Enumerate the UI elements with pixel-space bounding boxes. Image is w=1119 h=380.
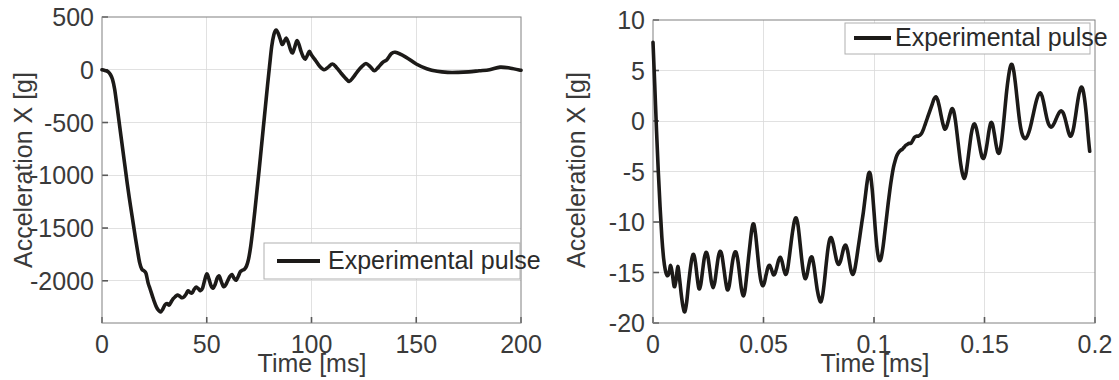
data-series-experimental-pulse-right bbox=[653, 42, 1090, 312]
y-axis-label-right: Acceleration X [g] bbox=[562, 72, 590, 268]
x-axis-label-left: Time [ms] bbox=[258, 349, 367, 377]
y-tick-label: -20 bbox=[609, 309, 645, 337]
y-axis-label-left: Acceleration X [g] bbox=[9, 72, 37, 268]
y-tick-label: 10 bbox=[617, 6, 645, 34]
y-tick-label: -1000 bbox=[30, 161, 94, 189]
y-tick-label: 5 bbox=[631, 57, 645, 85]
x-tick-label: 0 bbox=[646, 330, 660, 358]
chart-panel-right: 00.050.10.150.21050-5-10-15-20 Time [ms]… bbox=[559, 0, 1119, 380]
legend-label-left: Experimental pulse bbox=[328, 246, 541, 274]
chart-svg-right: 00.050.10.150.21050-5-10-15-20 Time [ms]… bbox=[559, 0, 1119, 380]
y-tick-label: 500 bbox=[52, 3, 94, 31]
chart-svg-left: 0501001502005000-500-1000-1500-2000 Time… bbox=[0, 0, 560, 380]
y-tick-label: 0 bbox=[631, 107, 645, 135]
chart-panel-left: 0501001502005000-500-1000-1500-2000 Time… bbox=[0, 0, 560, 380]
legend-right[interactable]: Experimental pulse bbox=[845, 23, 1108, 54]
y-tick-label: -5 bbox=[623, 158, 645, 186]
x-tick-label: 50 bbox=[193, 330, 221, 358]
y-tick-label: -1500 bbox=[30, 214, 94, 242]
y-tick-label: -10 bbox=[609, 208, 645, 236]
x-tick-label: 0 bbox=[95, 330, 109, 358]
legend-left[interactable]: Experimental pulse bbox=[264, 243, 541, 279]
y-tick-label: -2000 bbox=[30, 267, 94, 295]
y-tick-label: -500 bbox=[44, 109, 94, 137]
tick-label-group-left: 0501001502005000-500-1000-1500-2000 bbox=[30, 3, 542, 358]
x-tick-label: 200 bbox=[500, 330, 542, 358]
y-tick-label: 0 bbox=[80, 56, 94, 84]
x-tick-label: 0.2 bbox=[1078, 330, 1113, 358]
figure-container: 0501001502005000-500-1000-1500-2000 Time… bbox=[0, 0, 1119, 380]
x-axis-label-right: Time [ms] bbox=[821, 349, 930, 377]
x-tick-label: 0.15 bbox=[960, 330, 1009, 358]
legend-label-right: Experimental pulse bbox=[895, 23, 1108, 51]
x-tick-label: 0.05 bbox=[739, 330, 788, 358]
grid-group-right bbox=[653, 20, 1095, 323]
x-tick-label: 150 bbox=[395, 330, 437, 358]
y-tick-label: -15 bbox=[609, 259, 645, 287]
